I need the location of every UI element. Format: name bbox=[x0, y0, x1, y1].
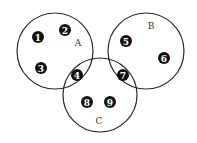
marker-number: 6 bbox=[161, 54, 167, 64]
marker-3: 3 bbox=[35, 62, 47, 74]
venn-diagram-svg: A B C 1 2 3 4 5 6 7 8 9 bbox=[0, 0, 197, 143]
marker-5: 5 bbox=[120, 35, 132, 47]
marker-9: 9 bbox=[104, 96, 116, 108]
set-label-c: C bbox=[96, 116, 103, 126]
marker-number: 5 bbox=[123, 37, 129, 47]
marker-6: 6 bbox=[158, 52, 170, 64]
marker-2: 2 bbox=[59, 24, 71, 36]
venn-diagram: A B C 1 2 3 4 5 6 7 8 9 bbox=[0, 0, 197, 143]
set-label-a: A bbox=[74, 38, 82, 48]
marker-number: 8 bbox=[84, 98, 90, 108]
marker-number: 3 bbox=[38, 64, 44, 74]
marker-7: 7 bbox=[117, 69, 129, 81]
marker-number: 1 bbox=[35, 33, 41, 43]
marker-1: 1 bbox=[32, 31, 44, 43]
marker-number: 7 bbox=[120, 71, 126, 81]
marker-number: 4 bbox=[74, 71, 80, 81]
marker-number: 9 bbox=[107, 98, 113, 108]
marker-8: 8 bbox=[81, 96, 93, 108]
marker-4: 4 bbox=[71, 69, 83, 81]
numbered-markers: 1 2 3 4 5 6 7 8 9 bbox=[32, 24, 170, 108]
marker-number: 2 bbox=[62, 26, 68, 36]
set-label-b: B bbox=[148, 21, 155, 31]
